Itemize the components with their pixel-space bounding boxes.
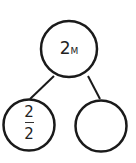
fraction-denominator: 2 — [24, 125, 34, 143]
fraction-numerator: 2 — [24, 103, 34, 121]
whole-unit: M — [71, 46, 79, 56]
whole-label: 2M — [49, 38, 89, 61]
connector-left — [30, 76, 54, 99]
whole-value: 2 — [60, 38, 71, 58]
connector-right — [88, 76, 100, 99]
part-fraction: 2 2 — [9, 104, 49, 142]
part-circle-right[interactable] — [76, 101, 127, 152]
fraction-bar — [25, 122, 34, 123]
